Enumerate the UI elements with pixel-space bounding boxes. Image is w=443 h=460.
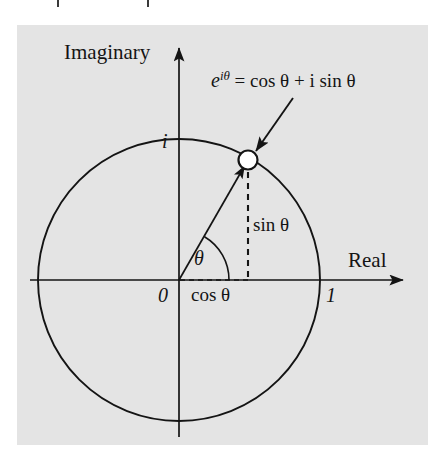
origin-label: 0 [158, 285, 168, 305]
real-axis-label: Real [348, 250, 386, 271]
euler-equation-label: eiθ = cos θ + i sin θ [211, 70, 356, 90]
equation-pointer-arrow [256, 98, 293, 151]
cos-theta-text: cos θ [191, 284, 230, 305]
sin-theta-text: sin θ [253, 214, 289, 235]
real-unit-label: 1 [326, 285, 336, 305]
angle-arc [205, 237, 230, 280]
point-marker [239, 151, 258, 170]
cos-theta-label: cos θ [191, 285, 230, 304]
euler-equation-rest: = cos θ + i sin θ [230, 70, 356, 91]
sin-theta-label: sin θ [253, 215, 289, 234]
angle-theta-label: θ [194, 248, 204, 268]
euler-exponent: iθ [220, 68, 230, 83]
radius-vector [179, 166, 245, 280]
imaginary-axis-label: Imaginary [64, 42, 150, 63]
euler-e-term: e [211, 69, 220, 91]
imaginary-unit-label: i [162, 131, 168, 151]
figure-page: Imaginary Real i 1 0 θ cos θ sin θ eiθ =… [0, 0, 443, 460]
